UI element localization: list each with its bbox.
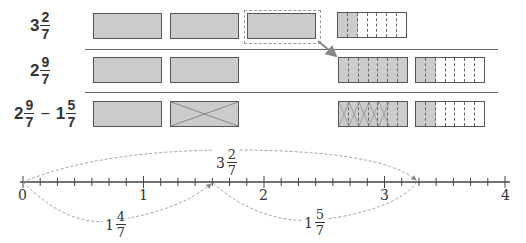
bottom-arc-1-label: 1 47 — [103, 210, 128, 239]
tick-label-0: 0 — [18, 187, 27, 203]
tick-label-3: 3 — [380, 187, 389, 203]
top-arc-label: 3 27 — [214, 148, 239, 177]
bottom-arc-2-label: 1 57 — [302, 208, 327, 237]
tick-label-4: 4 — [501, 187, 510, 203]
diagram-overlay — [0, 0, 526, 243]
tick-label-1: 1 — [139, 187, 148, 203]
tick-label-2: 2 — [259, 187, 268, 203]
